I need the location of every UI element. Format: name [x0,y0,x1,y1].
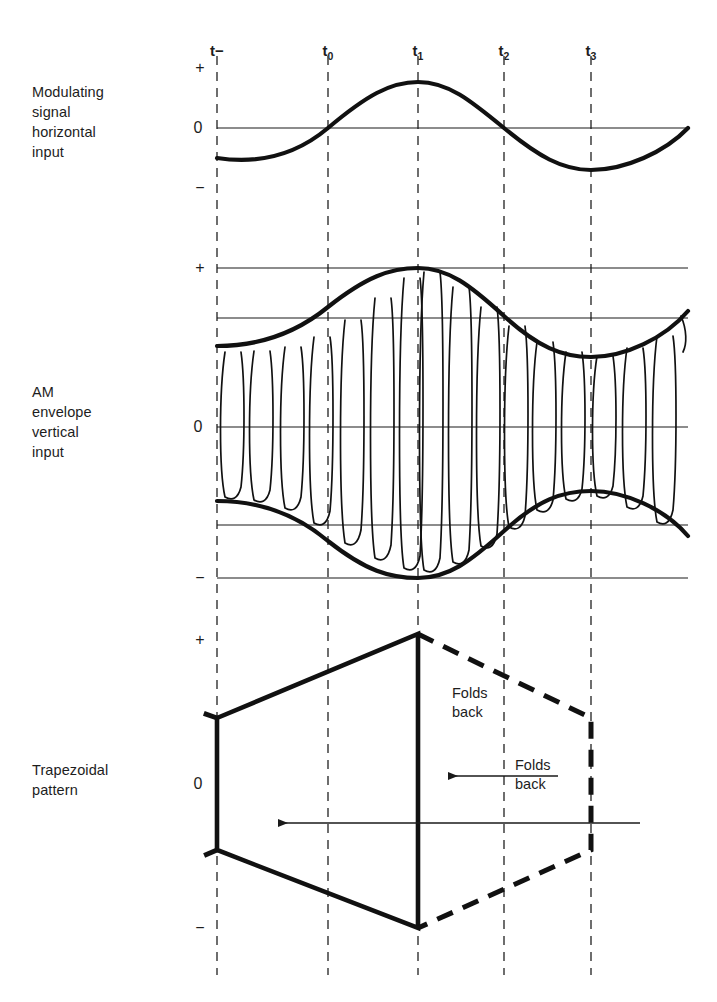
figure-canvas: t− t0 t1 t2 t3 Modulating signal horizon… [0,0,717,1002]
trapezoid-dashed-outline [418,634,591,928]
panel-label-modulating-signal: Modulating signal horizontal input [32,82,104,162]
time-label-t3: t3 [586,42,597,62]
time-label-t-minus: t− [210,42,224,59]
panel-trapezoidal-pattern [203,634,640,928]
axis-mark-minus-modulating: − [195,179,204,197]
time-label-t1: t1 [413,42,424,62]
trapezoid-solid-outline [217,634,418,928]
panel-am-envelope [217,268,688,578]
diagram-graphics [0,0,717,1002]
panel-modulating-signal [217,82,688,170]
annotation-folds-back-lower: Folds back [515,756,550,794]
axis-mark-minus-envelope: − [195,569,204,587]
panel-label-am-envelope: AM envelope vertical input [32,382,92,462]
axis-mark-plus-trapezoid: + [195,631,204,649]
axis-mark-zero-modulating: 0 [194,119,203,137]
time-label-t2: t2 [499,42,510,62]
envelope-upper [217,268,688,357]
axis-mark-plus-modulating: + [195,59,204,77]
modulating-sine-wave [217,82,688,170]
trapezoid-dashed-left-bottom [203,850,217,856]
axis-mark-minus-trapezoid: − [195,919,204,937]
axis-mark-zero-trapezoid: 0 [194,775,203,793]
axis-mark-zero-envelope: 0 [194,418,203,436]
carrier-oscillations [221,272,677,572]
carrier-edge-lobe [681,316,686,352]
annotation-folds-back-upper: Folds back [452,684,487,722]
envelope-lower [217,491,688,578]
trapezoid-dashed-left-top [203,713,217,718]
time-gridlines [217,56,591,975]
panel-label-trapezoidal-pattern: Trapezoidal pattern [32,760,108,800]
envelope-gridlines [217,268,688,578]
axis-mark-plus-envelope: + [195,259,204,277]
time-label-t0: t0 [323,42,334,62]
